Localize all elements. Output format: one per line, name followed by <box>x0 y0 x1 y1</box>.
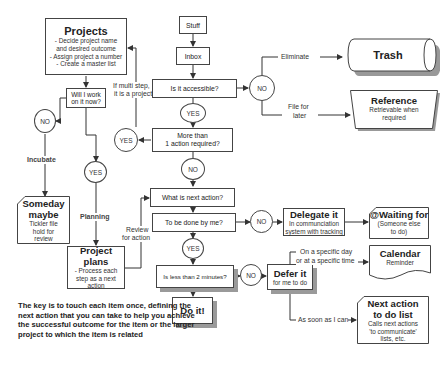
yes-label: YES <box>89 169 102 176</box>
waiting-line: to do) <box>369 228 429 236</box>
what-is-next-action-label: What is next action? <box>162 194 223 201</box>
no-label: NO <box>188 166 198 173</box>
what-is-next-action-box[interactable]: What is next action? <box>150 188 235 207</box>
projects-line: and desired outcome <box>56 45 116 53</box>
work-now-yes-circle[interactable]: YES <box>84 161 107 183</box>
less-than-two-minutes-label: Is less than 2 minutes? <box>163 273 226 280</box>
to-do-list-title: to do list <box>357 309 429 320</box>
is-accessible-label: Is it accessible? <box>171 85 219 92</box>
maybe-title: maybe <box>17 209 70 220</box>
no-label: NO <box>257 218 267 225</box>
is-a-project-label: it is a project <box>114 90 152 98</box>
reference-box[interactable]: Reference Retrievable when required <box>350 90 442 132</box>
project-plans-line: action <box>87 282 104 290</box>
to-be-done-by-me-decision[interactable]: To be done by me? <box>152 213 236 232</box>
someday-line: hold for <box>17 228 70 236</box>
will-i-work-line2: on it now? <box>71 98 101 106</box>
defer-title: Defer it <box>274 268 307 279</box>
more-than-one-line1: More than <box>177 132 208 140</box>
project-plans-line: - Process each <box>75 267 118 275</box>
waiting-title: @Waiting for <box>369 209 429 220</box>
no-label: NO <box>40 118 50 125</box>
inbox-box[interactable]: Inbox <box>176 47 210 65</box>
work-now-no-circle[interactable]: NO <box>34 109 56 133</box>
someday-title: Someday <box>17 198 70 209</box>
more-than-one-line2: 1 action required? <box>165 140 219 148</box>
someday-line: review <box>17 235 70 243</box>
less-than-two-minutes-decision[interactable]: Is less than 2 minutes? <box>156 265 234 288</box>
will-i-work-line1: Will I work <box>71 91 101 99</box>
multistep-yes-circle[interactable]: YES <box>114 128 138 152</box>
waiting-line: (Someone else <box>369 220 429 228</box>
asap-label: As soon as I can <box>298 316 348 324</box>
done-by-me-no-circle[interactable]: NO <box>250 210 273 233</box>
specific-time-label: or at a specific time <box>296 257 355 265</box>
calendar-title: Calendar <box>369 248 431 259</box>
no-label: NO <box>257 85 267 92</box>
delegate-it-box[interactable]: Delegate it In communciation system with… <box>283 208 345 236</box>
no-label: NO <box>246 272 256 279</box>
project-plans-box[interactable]: Project plans - Process each step as a n… <box>67 246 125 289</box>
project-plans-line: step as a next <box>76 275 116 283</box>
reference-title: Reference <box>350 95 438 106</box>
someday-line: Tickler file <box>17 220 70 228</box>
yes-label: YES <box>119 137 132 144</box>
key-note: The key is to touch each item once, defi… <box>18 301 208 339</box>
stuff-box[interactable]: Stuff <box>179 16 207 34</box>
trash-title: Trash <box>346 49 430 61</box>
two-minutes-no-circle[interactable]: NO <box>240 264 262 286</box>
file-for-label: File for <box>288 103 309 111</box>
next-list-line: Calls next actions <box>357 320 429 328</box>
yes-label: YES <box>186 110 199 117</box>
accessible-no-circle[interactable]: NO <box>249 75 275 101</box>
waiting-for-box[interactable]: @Waiting for (Someone else to do) <box>369 207 429 239</box>
gtd-flowchart: Stuff Inbox Is it accessible? NO YES Mor… <box>0 0 445 372</box>
will-i-work-on-it-decision[interactable]: Will I work on it now? <box>66 88 106 108</box>
inbox-label: Inbox <box>185 53 202 60</box>
someday-maybe-box[interactable]: Someday maybe Tickler file hold for revi… <box>17 196 70 244</box>
later-label: later <box>293 112 306 120</box>
eliminate-label: Eliminate <box>281 53 309 61</box>
multi-step-label: If multi step, <box>113 82 150 90</box>
projects-line: - Decide project name <box>55 37 118 45</box>
delegate-line: In communciation <box>289 220 339 228</box>
delegate-line: system with tracking <box>285 228 343 236</box>
next-list-line: lists, etc. <box>357 335 429 343</box>
specific-day-label: On a specific day <box>300 248 352 256</box>
is-accessible-decision[interactable]: Is it accessible? <box>152 79 237 98</box>
more-than-one-no-circle[interactable]: NO <box>181 158 205 180</box>
calendar-line: Reminder <box>369 259 431 267</box>
defer-it-box[interactable]: Defer it for me to do <box>267 264 313 290</box>
defer-line: for me to do <box>273 279 307 287</box>
next-action-title: Next action <box>357 298 429 309</box>
for-action-label: for action <box>122 234 150 242</box>
yes-label: YES <box>186 245 199 252</box>
done-by-me-yes-circle[interactable]: YES <box>182 238 204 259</box>
projects-line: - Create a master list <box>56 60 115 68</box>
planning-label: Planning <box>80 213 110 221</box>
delegate-title: Delegate it <box>290 209 338 220</box>
more-than-one-action-decision[interactable]: More than 1 action required? <box>152 128 233 152</box>
projects-box[interactable]: Projects - Decide project name and desir… <box>45 18 127 75</box>
to-be-done-by-me-label: To be done by me? <box>165 219 223 226</box>
stuff-label: Stuff <box>186 22 200 29</box>
calendar-box[interactable]: Calendar Reminder <box>369 245 431 283</box>
projects-title: Projects <box>64 25 107 37</box>
next-action-list-box[interactable]: Next action to do list Calls next action… <box>357 296 429 344</box>
trash-box[interactable]: Trash <box>346 38 440 78</box>
reference-line: required <box>350 114 438 122</box>
accessible-yes-circle[interactable]: YES <box>180 103 206 123</box>
project-plans-title: Project plans <box>68 245 124 267</box>
incubate-label: Incubate <box>27 156 56 164</box>
next-list-line: 'to communicate' <box>357 328 429 336</box>
projects-line: - Assign project a number <box>50 53 122 61</box>
reference-line: Retrievable when <box>350 106 438 114</box>
review-label: Review <box>126 226 148 234</box>
